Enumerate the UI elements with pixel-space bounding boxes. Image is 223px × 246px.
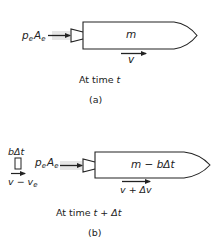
ejected-velocity-label: v − ve <box>8 176 38 189</box>
mass-label-a: m <box>126 28 136 40</box>
time-caption-b: At time t + Δt <box>56 207 123 218</box>
pressure-area-label-b: peAe <box>34 156 58 170</box>
nozzle-icon <box>71 29 83 42</box>
rocket-momentum-diagram: peAe m v At time t (a) bΔt v − ve peAe m… <box>0 0 223 246</box>
nozzle-icon <box>83 159 95 172</box>
rocket-body-a <box>83 22 197 49</box>
mass-label-b: m − bΔt <box>131 158 176 170</box>
pressure-area-label-a: peAe <box>21 29 45 43</box>
time-caption-a: At time t <box>79 74 122 85</box>
panel-label-b: (b) <box>88 227 101 238</box>
panel-b: bΔt v − ve peAe m − bΔt v + Δv At time t… <box>8 146 210 238</box>
ejected-mass-box <box>15 158 21 169</box>
velocity-label-a: v <box>128 53 135 65</box>
panel-a: peAe m v At time t (a) <box>21 22 197 105</box>
velocity-label-b: v + Δv <box>120 184 152 195</box>
ejected-mass-label: bΔt <box>8 146 26 157</box>
panel-label-a: (a) <box>89 94 102 105</box>
